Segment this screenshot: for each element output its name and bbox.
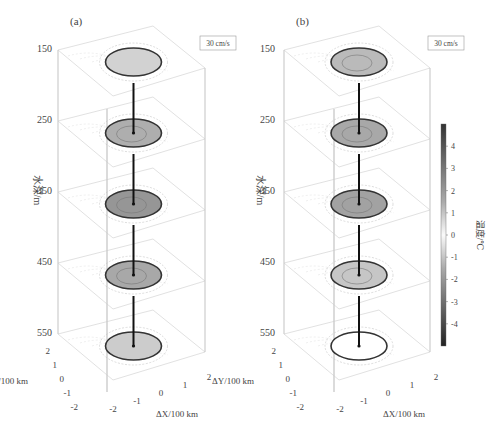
colorbar-tick-label: 0 bbox=[451, 231, 455, 240]
eddy-center bbox=[132, 273, 135, 276]
colorbar-tick-label: 2 bbox=[451, 187, 455, 196]
eddy-core-contour bbox=[106, 48, 162, 76]
eddy-center bbox=[357, 273, 360, 276]
x-tick-label: -2 bbox=[109, 404, 117, 414]
depth-tick-label: 550 bbox=[37, 327, 52, 338]
y-tick-label: 0 bbox=[60, 374, 65, 384]
eddy-center bbox=[132, 202, 135, 205]
depth-tick-label: 150 bbox=[260, 43, 275, 54]
scale-label: 30 cm/s bbox=[206, 39, 230, 48]
y-tick-label: 2 bbox=[46, 346, 51, 356]
figure: (a)30 cm/s150250350450550水深/m210-1-2-2-1… bbox=[0, 0, 491, 428]
x-tick-label: 1 bbox=[410, 380, 415, 390]
eddy-center bbox=[132, 344, 135, 347]
colorbar-tick-label: -2 bbox=[451, 275, 458, 284]
y-axis-label: ΔY/100 km bbox=[0, 376, 28, 386]
x-tick-label: 1 bbox=[183, 380, 188, 390]
colorbar-label: 温度/℃ bbox=[475, 220, 486, 251]
depth-axis-label: 水深/m bbox=[255, 175, 266, 206]
scale-label: 30 cm/s bbox=[434, 39, 458, 48]
colorbar-gradient bbox=[441, 124, 446, 346]
y-tick-label: -1 bbox=[290, 388, 298, 398]
y-tick-label: 1 bbox=[53, 360, 58, 370]
x-tick-label: 0 bbox=[159, 388, 164, 398]
x-axis-label: ΔX/100 km bbox=[156, 409, 198, 419]
eddy-core-contour bbox=[331, 48, 387, 76]
depth-tick-label: 450 bbox=[37, 256, 52, 267]
y-tick-label: 0 bbox=[286, 374, 291, 384]
y-tick-label: -1 bbox=[64, 388, 72, 398]
panel-b: (b)30 cm/s150250350450550水深/m210-1-2-2-1… bbox=[212, 15, 464, 419]
depth-tick-label: 450 bbox=[260, 256, 275, 267]
depth-tick-label: 250 bbox=[37, 114, 52, 125]
y-tick-label: 2 bbox=[272, 346, 277, 356]
x-tick-label: -1 bbox=[133, 396, 141, 406]
colorbar-tick-label: -4 bbox=[451, 320, 458, 329]
depth-tick-label: 150 bbox=[37, 43, 52, 54]
colorbar-tick-label: -1 bbox=[451, 253, 458, 262]
depth-tick-label: 250 bbox=[260, 114, 275, 125]
x-tick-label: -2 bbox=[336, 404, 344, 414]
depth-tick-label: 550 bbox=[260, 327, 275, 338]
x-tick-label: 0 bbox=[386, 388, 391, 398]
y-axis-label: ΔY/100 km bbox=[212, 376, 254, 386]
x-axis-label: ΔX/100 km bbox=[383, 409, 425, 419]
x-tick-label: -1 bbox=[360, 396, 368, 406]
y-tick-label: 1 bbox=[279, 360, 284, 370]
colorbar-tick-label: -3 bbox=[451, 298, 458, 307]
x-tick-label: 2 bbox=[207, 372, 212, 382]
colorbar: 43210-1-2-3-4温度/℃ bbox=[441, 124, 486, 346]
panel-label: (a) bbox=[70, 15, 83, 28]
colorbar-tick-label: 4 bbox=[451, 142, 455, 151]
y-tick-label: -2 bbox=[297, 402, 305, 412]
colorbar-tick-label: 1 bbox=[451, 209, 455, 218]
panel-a: (a)30 cm/s150250350450550水深/m210-1-2-2-1… bbox=[0, 15, 236, 419]
eddy-center bbox=[132, 131, 135, 134]
panel-label: (b) bbox=[296, 15, 309, 28]
y-tick-label: -2 bbox=[71, 402, 79, 412]
eddy-center bbox=[357, 202, 360, 205]
colorbar-tick-label: 3 bbox=[451, 164, 455, 173]
depth-axis-label: 水深/m bbox=[32, 175, 43, 206]
x-tick-label: 2 bbox=[434, 372, 439, 382]
eddy-center bbox=[357, 344, 360, 347]
eddy-center bbox=[357, 131, 360, 134]
